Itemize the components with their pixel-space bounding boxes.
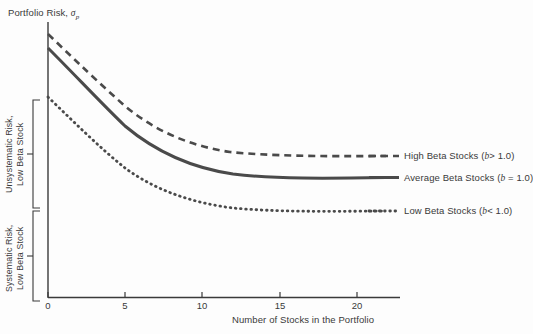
unsystematic-risk-label: Unsystematic Risk, Low Beta Stock — [4, 100, 25, 208]
series-high-beta-line — [48, 34, 386, 156]
systematic-risk-bracket — [27, 211, 40, 301]
chart-figure: Portfolio Risk, σp Number of Stocks in t… — [0, 0, 533, 334]
legend-label-average-beta: Average Beta Stocks (b = 1.0) — [404, 172, 533, 183]
systematic-risk-label: Systematic Risk, Low Beta Stock — [4, 212, 25, 304]
legend-label-high-beta: High Beta Stocks (b> 1.0) — [404, 150, 515, 161]
y-axis-title: Portfolio Risk, σp — [8, 7, 79, 21]
x-tick-label-20: 20 — [345, 300, 369, 311]
series-average-beta-line — [48, 48, 386, 178]
x-tick-label-5: 5 — [113, 300, 137, 311]
x-axis-title: Number of Stocks in the Portfolio — [232, 314, 374, 325]
legend-low-suffix: < 1.0) — [487, 205, 512, 216]
legend-average-suffix: = 1.0) — [505, 172, 533, 183]
unsystematic-risk-bracket — [27, 100, 40, 208]
legend-high-prefix: High Beta Stocks ( — [404, 150, 484, 161]
legend-label-low-beta: Low Beta Stocks (b< 1.0) — [404, 205, 512, 216]
legend-high-suffix: > 1.0) — [489, 150, 514, 161]
x-tick-label-10: 10 — [190, 300, 214, 311]
x-axis-ticks — [48, 292, 357, 297]
x-tick-label-15: 15 — [268, 300, 292, 311]
legend-low-prefix: Low Beta Stocks ( — [404, 205, 482, 216]
series-low-beta-line — [48, 97, 386, 211]
legend-average-prefix: Average Beta Stocks ( — [404, 172, 500, 183]
sigma-subscript: p — [76, 13, 80, 21]
x-tick-label-0: 0 — [36, 300, 60, 311]
y-axis-title-text: Portfolio Risk, — [8, 7, 71, 18]
chart-canvas — [0, 0, 533, 334]
